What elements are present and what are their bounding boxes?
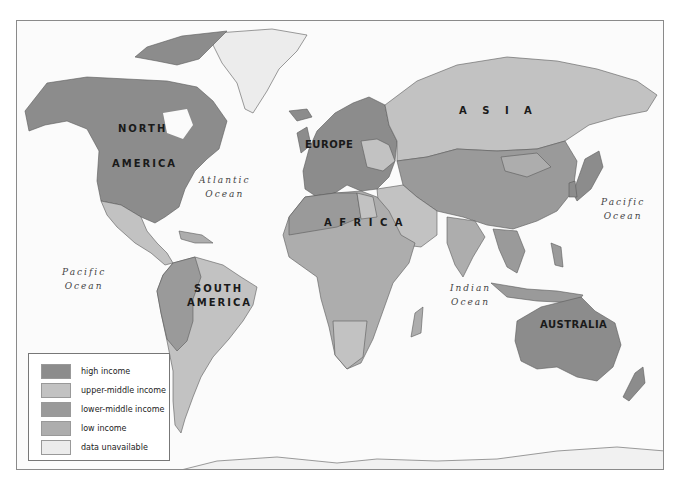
- legend-label: high income: [81, 367, 130, 376]
- antarctica: [177, 447, 664, 470]
- legend-item-upper-middle-income: upper-middle income: [41, 381, 169, 399]
- caribbean: [179, 231, 213, 243]
- label-atlantic-ocean: Atlantic Ocean: [199, 173, 251, 201]
- greenland: [213, 29, 307, 113]
- korea: [569, 181, 577, 197]
- legend-item-lower-middle-income: lower-middle income: [41, 400, 169, 418]
- india: [447, 217, 485, 277]
- north-america: [25, 77, 227, 223]
- label-indian-ocean: Indian Ocean: [450, 281, 491, 309]
- label-south-america-line1: SOUTH: [194, 283, 243, 294]
- philippines: [551, 243, 563, 267]
- world-map: NORTH AMERICA SOUTH AMERICA EUROPE A F R…: [16, 20, 664, 470]
- label-north-america-line2: AMERICA: [112, 158, 177, 169]
- southeast-asia: [493, 229, 525, 273]
- australia: [515, 297, 621, 381]
- label-indian-line1: Indian: [450, 281, 491, 295]
- label-asia: A S I A: [459, 105, 538, 116]
- japan: [573, 151, 603, 201]
- label-africa: A F R I C A: [324, 217, 404, 228]
- label-pacific-west-line1: Pacific: [62, 265, 106, 279]
- new-zealand: [623, 367, 645, 401]
- label-north-america-line1: NORTH: [118, 123, 167, 134]
- legend-label: upper-middle income: [81, 386, 166, 395]
- canadian-arctic-islands: [135, 31, 227, 65]
- legend-label: low income: [81, 424, 127, 433]
- label-atlantic-line1: Atlantic: [199, 173, 251, 187]
- legend-item-high-income: high income: [41, 362, 169, 380]
- label-pacific-east-line1: Pacific: [601, 195, 645, 209]
- label-indian-line2: Ocean: [450, 295, 491, 309]
- label-europe: EUROPE: [305, 139, 353, 150]
- legend-label: data unavailable: [81, 443, 148, 452]
- iceland: [289, 109, 312, 121]
- legend-swatch-lower-middle-income: [41, 402, 71, 417]
- legend-swatch-data-unavailable: [41, 440, 71, 455]
- legend-swatch-high-income: [41, 364, 71, 379]
- label-south-america-line2: AMERICA: [187, 297, 252, 308]
- label-atlantic-line2: Ocean: [199, 187, 251, 201]
- label-pacific-east-line2: Ocean: [601, 209, 645, 223]
- madagascar: [411, 307, 423, 337]
- legend-item-data-unavailable: data unavailable: [41, 438, 169, 456]
- legend-item-low-income: low income: [41, 419, 169, 437]
- label-pacific-ocean-east: Pacific Ocean: [601, 195, 645, 223]
- label-australia: AUSTRALIA: [540, 319, 607, 330]
- legend-swatch-upper-middle-income: [41, 383, 71, 398]
- label-pacific-ocean-west: Pacific Ocean: [62, 265, 106, 293]
- label-pacific-west-line2: Ocean: [62, 279, 106, 293]
- map-legend: high income upper-middle income lower-mi…: [28, 353, 170, 461]
- legend-label: lower-middle income: [81, 405, 164, 414]
- legend-swatch-low-income: [41, 421, 71, 436]
